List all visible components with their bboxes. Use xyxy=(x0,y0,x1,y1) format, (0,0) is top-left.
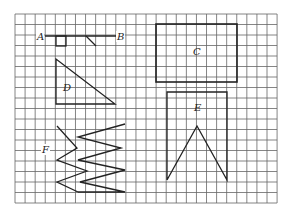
label-d: D xyxy=(62,82,71,93)
grid-diagram: A B C D E F xyxy=(0,0,289,218)
label-c: C xyxy=(193,46,201,57)
label-b: B xyxy=(116,31,124,42)
small-diagonal xyxy=(86,36,96,46)
label-f: F xyxy=(41,144,50,155)
small-square xyxy=(56,36,66,46)
figures xyxy=(45,24,237,192)
label-e: E xyxy=(193,102,202,113)
label-a: A xyxy=(36,31,44,42)
